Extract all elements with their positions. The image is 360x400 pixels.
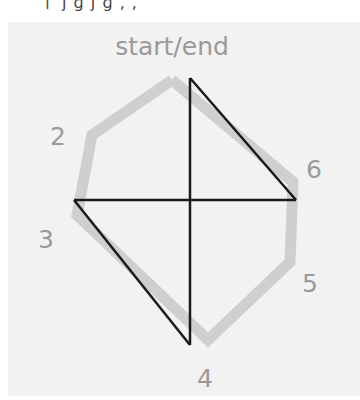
label-vertex-6: 6 xyxy=(306,155,322,184)
label-start-end: start/end xyxy=(115,32,229,61)
route-diagram: start/end 2 3 4 5 6 xyxy=(0,0,360,400)
label-vertex-5: 5 xyxy=(302,269,318,298)
label-vertex-3: 3 xyxy=(38,225,54,254)
route-path xyxy=(77,80,293,340)
shortcut-diagonal-bottom-left xyxy=(74,200,190,345)
label-vertex-2: 2 xyxy=(50,122,66,151)
shortcut-diagonal-top-right xyxy=(190,78,296,200)
label-vertex-4: 4 xyxy=(197,364,213,393)
